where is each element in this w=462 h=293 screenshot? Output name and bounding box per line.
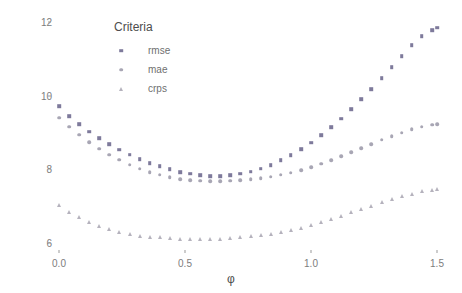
x-axis-title: φ [0, 272, 462, 286]
chart-legend: Criteria rmsemaecrps [100, 20, 240, 98]
x-axis-tick-mark [311, 250, 312, 253]
legend-label: crps [148, 83, 167, 94]
x-axis-tick-label: 0.0 [52, 258, 66, 269]
legend-key-mae-icon [114, 63, 128, 77]
legend-item-mae[interactable]: mae [100, 60, 240, 79]
legend-key-crps-icon [114, 82, 128, 96]
legend-item-crps[interactable]: crps [100, 79, 240, 98]
data-point-marker [119, 68, 123, 72]
data-point-marker [119, 49, 123, 53]
x-axis-tick-mark [437, 250, 438, 253]
data-point-marker [119, 87, 123, 91]
legend-label: mae [148, 64, 167, 75]
scatter-plot-chart: criteria value 681012 0.00.51.01.5 φ Cri… [0, 0, 462, 293]
x-axis-tick-mark [185, 250, 186, 253]
legend-key-rmse-icon [114, 44, 128, 58]
x-axis-tick-label: 1.5 [430, 258, 444, 269]
legend-item-rmse[interactable]: rmse [100, 41, 240, 60]
x-axis-tick-mark [59, 250, 60, 253]
legend-title: Criteria [100, 20, 240, 34]
legend-label: rmse [148, 45, 170, 56]
x-axis-tick-label: 1.0 [304, 258, 318, 269]
x-axis-tick-label: 0.5 [178, 258, 192, 269]
